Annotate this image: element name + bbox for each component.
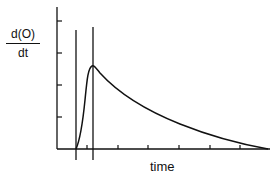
data-curve [76,66,268,149]
plot-area [0,0,279,185]
y-label-denominator: dt [6,44,40,60]
y-label-numerator: d(O) [6,27,40,44]
x-axis-label: time [150,159,175,174]
y-ticks [57,21,62,117]
y-axis-label: d(O) dt [6,27,40,60]
